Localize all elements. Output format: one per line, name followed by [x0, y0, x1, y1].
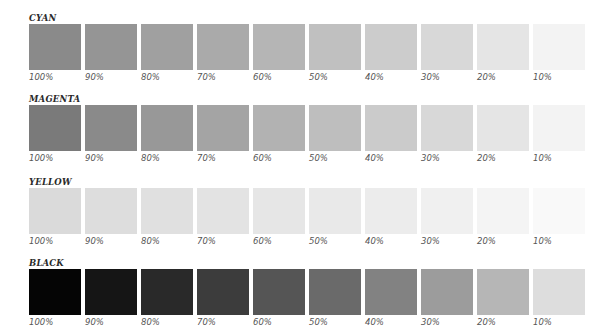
swatch: 60% — [253, 105, 305, 151]
swatch-color-box — [309, 188, 361, 234]
swatch-percent-label: 50% — [309, 236, 328, 246]
swatch: 40% — [365, 269, 417, 315]
swatch-color-box — [29, 105, 81, 151]
swatch-color-box — [309, 105, 361, 151]
swatch: 20% — [477, 24, 529, 70]
swatch: 80% — [141, 105, 193, 151]
swatch: 70% — [197, 24, 249, 70]
swatch-color-box — [197, 24, 249, 70]
swatch-row: 100%90%80%70%60%50%40%30%20%10% — [29, 188, 589, 234]
group-title: CYAN — [29, 13, 56, 23]
swatch-color-box — [365, 269, 417, 315]
swatch-color-box — [365, 188, 417, 234]
swatch-percent-label: 30% — [421, 236, 440, 246]
swatch-color-box — [533, 188, 585, 234]
swatch-color-box — [197, 188, 249, 234]
swatch-row: 100%90%80%70%60%50%40%30%20%10% — [29, 24, 589, 70]
swatch: 30% — [421, 24, 473, 70]
swatch-color-box — [477, 24, 529, 70]
swatch: 90% — [85, 105, 137, 151]
swatch-percent-label: 20% — [477, 153, 496, 163]
swatch-percent-label: 60% — [253, 236, 272, 246]
swatch-color-box — [421, 105, 473, 151]
swatch-percent-label: 30% — [421, 317, 440, 327]
swatch-color-box — [141, 24, 193, 70]
swatch: 10% — [533, 269, 585, 315]
swatch: 40% — [365, 24, 417, 70]
swatch-row: 100%90%80%70%60%50%40%30%20%10% — [29, 269, 589, 315]
swatch-color-box — [477, 269, 529, 315]
swatch-color-box — [253, 269, 305, 315]
group-title: BLACK — [29, 258, 64, 268]
swatch-color-box — [29, 269, 81, 315]
swatch-percent-label: 60% — [253, 153, 272, 163]
swatch: 50% — [309, 24, 361, 70]
swatch-color-box — [85, 24, 137, 70]
swatch: 60% — [253, 24, 305, 70]
swatch-percent-label: 10% — [533, 236, 552, 246]
swatch-color-box — [85, 188, 137, 234]
swatch: 90% — [85, 269, 137, 315]
swatch-color-box — [141, 188, 193, 234]
swatch: 50% — [309, 105, 361, 151]
swatch-color-box — [533, 24, 585, 70]
swatch-color-box — [29, 188, 81, 234]
swatch-percent-label: 80% — [141, 236, 160, 246]
swatch-color-box — [421, 188, 473, 234]
swatch-percent-label: 100% — [29, 153, 53, 163]
swatch-percent-label: 70% — [197, 236, 216, 246]
swatch-color-box — [141, 105, 193, 151]
swatch: 60% — [253, 269, 305, 315]
swatch-row: 100%90%80%70%60%50%40%30%20%10% — [29, 105, 589, 151]
swatch-percent-label: 70% — [197, 317, 216, 327]
swatch-color-box — [85, 269, 137, 315]
swatch: 80% — [141, 188, 193, 234]
swatch: 10% — [533, 105, 585, 151]
swatch: 100% — [29, 188, 81, 234]
swatch-color-box — [421, 269, 473, 315]
swatch-color-box — [309, 24, 361, 70]
swatch: 10% — [533, 188, 585, 234]
swatch-percent-label: 30% — [421, 153, 440, 163]
swatch: 20% — [477, 188, 529, 234]
swatch-percent-label: 90% — [85, 153, 104, 163]
swatch: 30% — [421, 188, 473, 234]
swatch: 90% — [85, 188, 137, 234]
swatch: 20% — [477, 269, 529, 315]
swatch-percent-label: 90% — [85, 72, 104, 82]
swatch-color-box — [365, 105, 417, 151]
swatch-color-box — [141, 269, 193, 315]
swatch: 40% — [365, 105, 417, 151]
swatch-percent-label: 70% — [197, 72, 216, 82]
swatch-color-box — [365, 24, 417, 70]
swatch-color-box — [85, 105, 137, 151]
swatch: 100% — [29, 269, 81, 315]
swatch-percent-label: 90% — [85, 317, 104, 327]
swatch: 20% — [477, 105, 529, 151]
swatch: 10% — [533, 24, 585, 70]
swatch: 40% — [365, 188, 417, 234]
swatch-color-box — [197, 269, 249, 315]
swatch-percent-label: 100% — [29, 236, 53, 246]
swatch-color-box — [477, 188, 529, 234]
swatch-color-box — [253, 24, 305, 70]
swatch-percent-label: 50% — [309, 72, 328, 82]
swatch: 90% — [85, 24, 137, 70]
swatch: 30% — [421, 269, 473, 315]
swatch-percent-label: 10% — [533, 72, 552, 82]
swatch: 100% — [29, 24, 81, 70]
group-title: MAGENTA — [29, 94, 80, 104]
swatch: 50% — [309, 188, 361, 234]
swatch-percent-label: 50% — [309, 317, 328, 327]
swatch-percent-label: 30% — [421, 72, 440, 82]
swatch-percent-label: 10% — [533, 153, 552, 163]
swatch-percent-label: 50% — [309, 153, 328, 163]
swatch-percent-label: 60% — [253, 72, 272, 82]
swatch-percent-label: 100% — [29, 72, 53, 82]
swatch-color-box — [533, 269, 585, 315]
swatch-percent-label: 10% — [533, 317, 552, 327]
swatch: 70% — [197, 105, 249, 151]
swatch-percent-label: 100% — [29, 317, 53, 327]
swatch-percent-label: 80% — [141, 317, 160, 327]
swatch: 80% — [141, 24, 193, 70]
